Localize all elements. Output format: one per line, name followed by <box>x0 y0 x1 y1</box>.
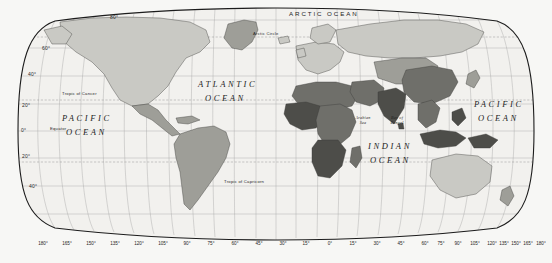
lon-label-90-east: 90° <box>455 241 462 246</box>
land-british-isles <box>296 48 306 58</box>
lon-label-135-east: 135° <box>499 241 509 246</box>
lon-label-60-west: 60° <box>232 241 239 246</box>
lon-label-120-east: 120° <box>487 241 497 246</box>
lon-label-165-east: 165° <box>523 241 533 246</box>
lon-label-30-west: 30° <box>280 241 287 246</box>
lon-label-150-west: 150° <box>86 241 96 246</box>
lon-label-165-west: 165° <box>62 241 72 246</box>
lon-label-105-west: 105° <box>158 241 168 246</box>
lon-label-60-east: 60° <box>422 241 429 246</box>
lon-label-120-west: 120° <box>134 241 144 246</box>
lon-label-180-west: 180° <box>38 241 48 246</box>
lon-label-90-west: 90° <box>184 241 191 246</box>
lon-label-15-east: 15° <box>350 241 357 246</box>
world-map-figure: ARCTIC OCEAN ATLANTIC OCEAN PACIFIC OCEA… <box>0 0 552 263</box>
lon-label-180-east: 180° <box>536 241 546 246</box>
lon-label-45-west: 45° <box>256 241 263 246</box>
lon-label-75-west: 75° <box>208 241 215 246</box>
lon-label-150-east: 150° <box>511 241 521 246</box>
lon-label-15-west: 15° <box>303 241 310 246</box>
lon-label-30-east: 30° <box>374 241 381 246</box>
lon-label-75-east: 75° <box>438 241 445 246</box>
lon-label-0-prime: 0° <box>328 241 332 246</box>
lon-label-135-west: 135° <box>110 241 120 246</box>
lon-label-105-east: 105° <box>470 241 480 246</box>
land-sri-lanka <box>398 123 404 129</box>
map-canvas <box>0 0 552 263</box>
longitude-axis: 180° 165° 150° 135° 120° 105° 90° 75° 60… <box>0 241 552 251</box>
lon-label-45-east: 45° <box>398 241 405 246</box>
